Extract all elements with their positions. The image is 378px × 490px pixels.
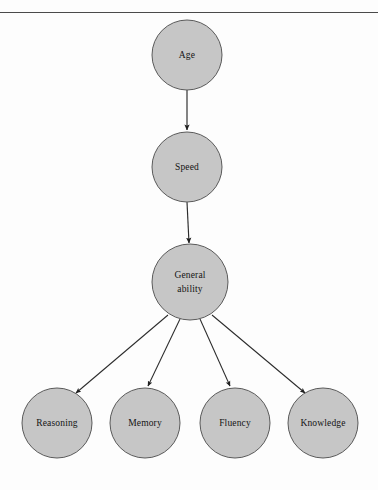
edge-general-to-knowledge (212, 315, 305, 393)
node-general-ability-label-line2: ability (177, 284, 202, 294)
edge-general-to-memory (148, 319, 180, 386)
node-general-ability[interactable]: General ability (152, 244, 228, 320)
node-fluency-label: Fluency (219, 418, 251, 428)
node-reasoning-label: Reasoning (36, 418, 78, 428)
node-knowledge-label: Knowledge (300, 418, 345, 428)
node-age-label: Age (179, 50, 195, 60)
path-model-diagram: Age Speed General ability Reasoning Memo… (0, 0, 378, 490)
node-fluency[interactable]: Fluency (200, 388, 270, 458)
node-knowledge[interactable]: Knowledge (288, 388, 358, 458)
node-speed[interactable]: Speed (152, 132, 222, 202)
node-general-ability-label-line1: General (174, 270, 205, 280)
diagram-root: Age Speed General ability Reasoning Memo… (0, 0, 378, 490)
node-age[interactable]: Age (152, 20, 222, 90)
node-reasoning[interactable]: Reasoning (22, 388, 92, 458)
edge-speed-to-general (187, 202, 189, 243)
edge-general-to-reasoning (76, 315, 168, 393)
node-memory-label: Memory (128, 418, 162, 428)
edge-general-to-fluency (200, 319, 230, 386)
node-memory[interactable]: Memory (110, 388, 180, 458)
node-speed-label: Speed (175, 162, 199, 172)
node-general-ability-circle[interactable] (152, 244, 228, 320)
